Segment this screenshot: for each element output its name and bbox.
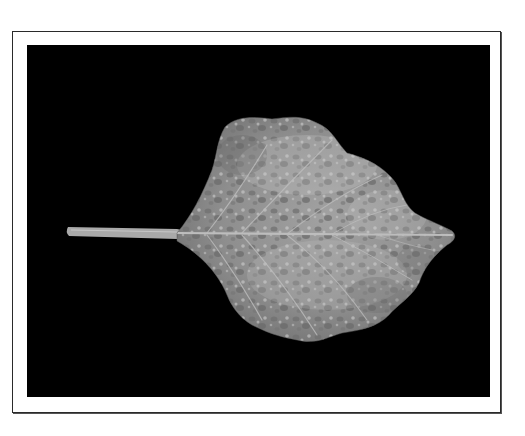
leaf-photo xyxy=(27,45,490,397)
leaf-mottling xyxy=(167,105,467,355)
leaf-illustration xyxy=(27,45,490,397)
petiole xyxy=(67,227,195,239)
